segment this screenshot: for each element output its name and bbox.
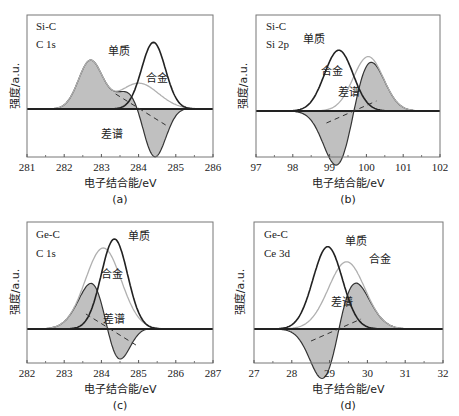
x-tick-label: 102 — [432, 161, 449, 173]
panel-a-tag: (a) — [112, 193, 127, 206]
plot-area-c: 282283284285286287 — [19, 222, 222, 379]
panel-c: 282283284285286287 Ge-C C 1s 单质 合金 差谱 电子… — [8, 222, 222, 412]
panel-d-label-elemental: 单质 — [345, 235, 367, 248]
panel-a-orbital: C 1s — [36, 38, 56, 50]
panel-d-ylabel: 强度/a.u. — [233, 269, 247, 315]
x-tick-label: 28 — [286, 367, 298, 379]
x-tick-label: 27 — [249, 367, 261, 379]
panel-b-ylabel: 强度/a.u. — [236, 63, 250, 109]
panel-c-orbital: C 1s — [36, 247, 56, 259]
panel-a-label-alloy: 合金 — [146, 71, 168, 85]
panel-c-label-difference: 差谱 — [103, 312, 125, 326]
panel-b-orbital: Si 2p — [266, 38, 289, 50]
x-tick-label: 284 — [130, 161, 147, 173]
panel-c-xlabel: 电子结合能/eV — [84, 382, 157, 396]
panel-d-system: Ge-C — [264, 228, 288, 240]
panel-b-label-difference: 差谱 — [338, 85, 360, 99]
panel-b-tag: (b) — [340, 193, 356, 206]
xps-figure: 281282283284285286 Si-C C 1s 单质 合金 差谱 电子… — [0, 0, 459, 416]
panel-d-tag: (d) — [340, 399, 356, 412]
panel-a-label-difference: 差谱 — [101, 127, 123, 141]
panel-a-label-elemental: 单质 — [108, 45, 130, 58]
panel-d: 272829303132 Ge-C Ce 3d 单质 合金 差谱 电子结合能/e… — [233, 222, 449, 412]
alloy-curve — [256, 57, 440, 111]
panel-c-ylabel: 强度/a.u. — [8, 269, 22, 315]
panel-b-xlabel: 电子结合能/eV — [312, 176, 385, 190]
panel-d-label-difference: 差谱 — [331, 295, 353, 309]
x-tick-label: 282 — [56, 161, 73, 173]
panel-a-system: Si-C — [36, 20, 56, 32]
x-tick-label: 97 — [251, 161, 263, 173]
panel-d-orbital: Ce 3d — [264, 247, 290, 259]
x-tick-label: 30 — [362, 367, 374, 379]
x-tick-label: 99 — [324, 161, 336, 173]
panel-c-system: Ge-C — [36, 228, 60, 240]
difference-fill — [256, 62, 440, 165]
panel-b-label-alloy: 合金 — [321, 64, 343, 78]
x-tick-label: 283 — [93, 161, 110, 173]
panel-b-system: Si-C — [266, 20, 286, 32]
x-tick-label: 31 — [400, 367, 411, 379]
x-tick-label: 98 — [287, 161, 299, 173]
panel-c-label-elemental: 单质 — [128, 230, 150, 243]
x-tick-label: 100 — [358, 161, 375, 173]
x-tick-label: 286 — [205, 161, 222, 173]
x-tick-label: 283 — [56, 367, 73, 379]
panel-a: 281282283284285286 Si-C C 1s 单质 合金 差谱 电子… — [8, 15, 222, 206]
panel-d-xlabel: 电子结合能/eV — [312, 382, 385, 396]
x-tick-label: 101 — [395, 161, 412, 173]
x-tick-label: 29 — [324, 367, 336, 379]
x-tick-label: 287 — [205, 367, 222, 379]
panel-c-tag: (c) — [113, 399, 128, 412]
x-tick-label: 32 — [438, 367, 449, 379]
x-tick-label: 281 — [19, 161, 36, 173]
panel-c-label-alloy: 合金 — [101, 267, 123, 281]
x-tick-label: 282 — [19, 367, 36, 379]
x-tick-label: 285 — [130, 367, 147, 379]
panel-d-label-alloy: 合金 — [369, 252, 391, 266]
elemental-curve — [256, 50, 440, 111]
panel-a-xlabel: 电子结合能/eV — [84, 176, 157, 190]
x-tick-label: 286 — [168, 367, 185, 379]
panel-a-ylabel: 强度/a.u. — [8, 63, 22, 109]
x-tick-label: 284 — [93, 367, 110, 379]
x-tick-label: 285 — [168, 161, 185, 173]
panel-b: 979899100101102 Si-C Si 2p 单质 合金 差谱 电子结合… — [236, 15, 448, 206]
panel-b-label-elemental: 单质 — [303, 33, 325, 46]
